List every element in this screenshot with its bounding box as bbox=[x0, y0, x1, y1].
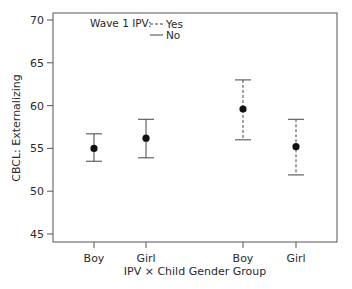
y-tick-label: 65 bbox=[30, 57, 44, 70]
y-tick-label: 60 bbox=[30, 100, 44, 113]
plot-frame bbox=[53, 13, 337, 242]
error-bar-no-boy bbox=[86, 134, 102, 161]
chart-container: 455055606570 BoyGirlBoyGirl Wave 1 IPV:Y… bbox=[0, 0, 352, 289]
y-tick-label: 55 bbox=[30, 142, 44, 155]
legend-label-no: No bbox=[166, 29, 180, 41]
mean-point bbox=[142, 135, 149, 142]
mean-point bbox=[90, 145, 97, 152]
y-tick-label: 45 bbox=[30, 228, 44, 241]
x-tick-label: Boy bbox=[233, 252, 254, 265]
x-tick-label: Girl bbox=[136, 252, 155, 265]
error-bar-yes-boy bbox=[235, 80, 251, 140]
x-axis: BoyGirlBoyGirl bbox=[84, 242, 306, 265]
legend-title: Wave 1 IPV: bbox=[90, 17, 151, 29]
error-bar-no-girl bbox=[138, 119, 154, 158]
mean-point bbox=[239, 105, 246, 112]
error-bar-yes-girl bbox=[288, 119, 304, 175]
y-tick-label: 70 bbox=[30, 14, 44, 27]
x-axis-label: IPV × Child Gender Group bbox=[124, 265, 266, 278]
y-tick-label: 50 bbox=[30, 185, 44, 198]
legend: Wave 1 IPV:YesNo bbox=[90, 17, 183, 41]
error-bars bbox=[86, 80, 304, 175]
mean-point bbox=[292, 143, 299, 150]
y-axis: 455055606570 bbox=[30, 14, 53, 241]
plot-border bbox=[53, 13, 337, 242]
error-bar-chart: 455055606570 BoyGirlBoyGirl Wave 1 IPV:Y… bbox=[0, 0, 352, 289]
x-tick-label: Girl bbox=[286, 252, 305, 265]
x-tick-label: Boy bbox=[84, 252, 105, 265]
y-axis-label: CBCL: Externalizing bbox=[10, 74, 23, 182]
